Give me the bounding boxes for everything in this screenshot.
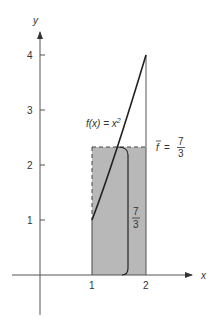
y-tick-label-2: 2: [27, 160, 33, 171]
function-label-text: f(x) = x: [86, 118, 118, 129]
function-label-exponent: 2: [116, 117, 121, 124]
x-axis-label: x: [200, 270, 207, 281]
x-tick-label-1: 1: [89, 280, 95, 291]
y-tick-label-4: 4: [27, 50, 33, 61]
mean-symbol: f: [156, 142, 160, 153]
average-value-diagram: y x 4 3 2 1 1 2 f(x) = x2 f = 7 3 7 3: [0, 0, 218, 330]
x-tick-label-2: 2: [143, 280, 149, 291]
brace-denominator: 3: [133, 219, 139, 230]
y-tick-label-3: 3: [27, 105, 33, 116]
y-tick-label-1: 1: [27, 215, 33, 226]
mean-equals: =: [164, 142, 170, 153]
mean-denominator: 3: [178, 148, 184, 159]
mean-numerator: 7: [178, 136, 184, 147]
function-label: f(x) = x2: [86, 117, 121, 129]
brace-numerator: 7: [133, 206, 139, 217]
y-axis-label: y: [32, 15, 39, 26]
